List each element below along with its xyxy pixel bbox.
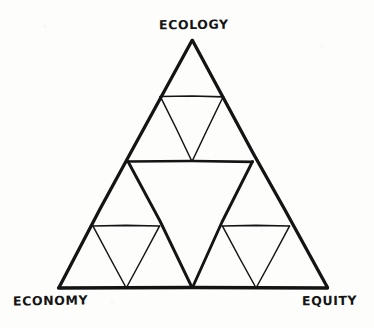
outer-triangle-right-edge: [193, 41, 328, 288]
label-economy: ECONOMY: [13, 292, 88, 308]
level2-top-inverted-left-edge: [161, 97, 192, 161]
label-ecology: ECOLOGY: [159, 17, 229, 33]
triangle-graphic: [0, 0, 374, 328]
triangle-strokes: [59, 41, 328, 289]
outer-triangle-left-edge: [59, 41, 192, 288]
level2-bottomleft-inverted-right-edge: [127, 226, 160, 287]
level2-top-inverted-right-edge: [193, 97, 224, 161]
level2-bottomright-inverted-left-edge: [223, 226, 256, 287]
sustainability-triangle-diagram: ECOLOGY ECONOMY EQUITY: [0, 0, 374, 328]
label-equity: EQUITY: [302, 293, 357, 308]
level2-top-horizontal: [160, 96, 224, 97]
level2-bottomleft-inverted-left-edge: [93, 226, 126, 287]
level2-bottomright-inverted-right-edge: [256, 226, 289, 287]
level2-bottomright-horizontal: [222, 225, 290, 226]
level1-inverted-right-edge: [193, 162, 253, 288]
level1-inverted-left-edge: [128, 162, 192, 288]
level1-midline-horizontal: [128, 161, 253, 162]
level2-bottomleft-horizontal: [93, 225, 160, 226]
